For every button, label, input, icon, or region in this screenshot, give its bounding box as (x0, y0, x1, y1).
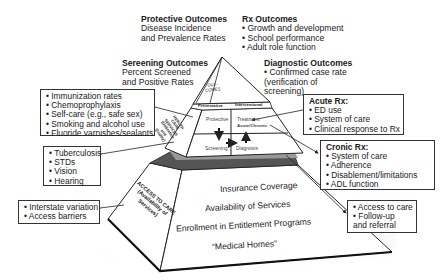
quadrant-treatment: Treatment (237, 117, 260, 123)
acute-rx-item: • Clinical response to Rx (309, 125, 399, 134)
screening-box: • Tuberculosis • STDs • Vision • Hearing (43, 146, 101, 186)
quadrant-treatment-sub: Acute/Chronic (237, 123, 267, 129)
apex-label: OUT- COMES (205, 82, 221, 92)
screening-outcomes: Sereening Outcomes Percent Screened and … (122, 59, 208, 87)
protective-outcomes-line: and Prevalence Rates (141, 34, 227, 43)
chronic-rx-item: • ADL function (326, 180, 430, 189)
diagnostic-outcomes: Diagnostic Outcomes • Confirmed case rat… (264, 59, 352, 97)
tier2-header-left: Preventative (198, 104, 223, 109)
acute-rx-box: Acute Rx: • ED use • System of care • Cl… (303, 94, 404, 135)
tier2-header-right: Interventional (235, 103, 262, 108)
protective-outcomes: Protective Outcomes Disease Incidence an… (141, 15, 227, 43)
access-right-box: • Access to care • Follow-up and referra… (347, 200, 417, 233)
quadrant-protective: Protective (206, 117, 228, 123)
preventive-item: • Fluoride varnishes/sealants (46, 129, 150, 138)
chronic-rx-box: Cronic Rx: • System of care • Adherence … (320, 140, 435, 190)
quadrant-diagnosis: Diagnosis (236, 146, 258, 152)
screening-item: • Hearing (49, 177, 96, 186)
rx-outcome-item: • Adult role function (242, 43, 343, 52)
quadrant-screening: Screening (205, 146, 228, 152)
access-right-item: and referral (353, 221, 412, 230)
rx-outcomes: Rx Outcomes • Growth and development • S… (242, 15, 343, 53)
access-left-item: • Access barriers (24, 212, 95, 221)
access-left-box: • Interstate variation • Access barriers (18, 200, 100, 224)
preventive-box: • Immunization rates • Chemoprophylaxis … (40, 89, 155, 136)
screening-outcomes-line: and Positive Rates (122, 78, 208, 87)
